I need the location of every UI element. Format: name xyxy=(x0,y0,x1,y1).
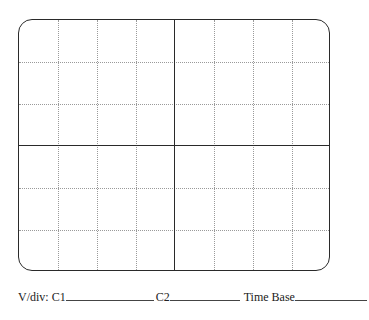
center-axis-horizontal xyxy=(19,145,329,146)
vdiv-c1-label: V/div: C1 xyxy=(18,290,66,305)
time-base-label: Time Base xyxy=(244,290,295,305)
c2-blank-field[interactable] xyxy=(170,290,240,301)
c2-label: C2 xyxy=(156,290,170,305)
settings-labels: V/div: C1 C2 Time Base xyxy=(18,290,369,305)
oscilloscope-graticule xyxy=(18,19,330,271)
time-base-blank-field[interactable] xyxy=(295,290,367,301)
c1-blank-field[interactable] xyxy=(66,290,154,301)
